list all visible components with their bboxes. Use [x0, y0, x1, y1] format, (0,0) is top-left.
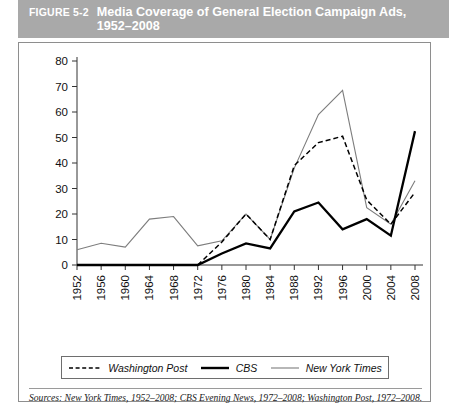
legend-label-new-york-times: New York Times	[306, 362, 382, 374]
y-tick-label: 70	[55, 81, 68, 93]
chart-plot-area: 0102030405060708019521956196019641968197…	[19, 43, 432, 319]
legend-item-cbs: CBS	[200, 362, 258, 374]
legend-item-washington-post: Washington Post	[68, 362, 187, 374]
x-tick-label: 1980	[240, 275, 252, 301]
x-tick-label: 1952	[71, 275, 83, 301]
x-tick-label: 1988	[288, 275, 300, 301]
legend-label-washington-post: Washington Post	[108, 362, 187, 374]
figure-title: Media Coverage of General Election Campa…	[97, 5, 417, 33]
x-tick-label: 1960	[119, 275, 131, 301]
series-line-washington-post	[198, 136, 415, 265]
figure-frame: 0102030405060708019521956196019641968197…	[18, 42, 431, 402]
x-tick-label: 1972	[192, 275, 204, 301]
x-tick-label: 1992	[312, 275, 324, 301]
x-tick-label: 1984	[264, 274, 276, 300]
y-tick-label: 60	[55, 106, 68, 118]
legend-swatch-solid-thick-icon	[200, 363, 230, 373]
x-tick-label: 1968	[168, 275, 180, 301]
x-tick-label: 2004	[385, 274, 397, 300]
series-line-new-york-times	[77, 90, 415, 249]
x-tick-label: 1964	[143, 274, 155, 300]
figure-container: FIGURE 5-2 Media Coverage of General Ele…	[0, 0, 449, 419]
y-tick-label: 20	[55, 208, 68, 220]
legend-item-new-york-times: New York Times	[270, 362, 382, 374]
figure-header-band: FIGURE 5-2 Media Coverage of General Ele…	[18, 0, 449, 38]
y-tick-label: 0	[62, 259, 68, 271]
y-tick-label: 80	[55, 55, 68, 67]
y-tick-label: 30	[55, 183, 68, 195]
y-tick-label: 40	[55, 157, 68, 169]
y-tick-label: 50	[55, 132, 68, 144]
line-chart: 0102030405060708019521956196019641968197…	[19, 43, 432, 319]
chart-legend: Washington Post CBS New York Times	[61, 356, 389, 379]
x-tick-label: 1976	[216, 275, 228, 301]
legend-swatch-dashed-icon	[68, 363, 102, 373]
x-tick-label: 1996	[337, 275, 349, 301]
x-tick-label: 2008	[409, 275, 421, 301]
legend-swatch-solid-thin-icon	[270, 363, 300, 373]
y-tick-label: 10	[55, 234, 68, 246]
legend-label-cbs: CBS	[236, 362, 258, 374]
source-separator	[29, 388, 422, 389]
x-tick-label: 1956	[95, 275, 107, 301]
figure-number: FIGURE 5-2	[29, 6, 89, 18]
source-note: Sources: New York Times, 1952–2008; CBS …	[29, 392, 425, 404]
x-tick-label: 2000	[361, 275, 373, 301]
